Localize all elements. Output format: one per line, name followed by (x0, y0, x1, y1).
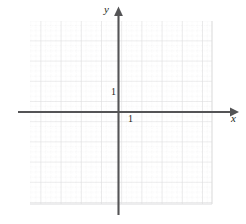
x-axis-unit-tick-label: 1 (128, 114, 133, 124)
y-axis-unit-tick-label: 1 (111, 87, 116, 97)
coordinate-plane-figure: y x 1 1 (0, 0, 246, 224)
y-axis-label: y (104, 4, 109, 15)
coordinate-plane-svg (0, 0, 246, 224)
x-axis-label: x (231, 113, 236, 124)
y-axis-arrowhead (114, 7, 123, 17)
